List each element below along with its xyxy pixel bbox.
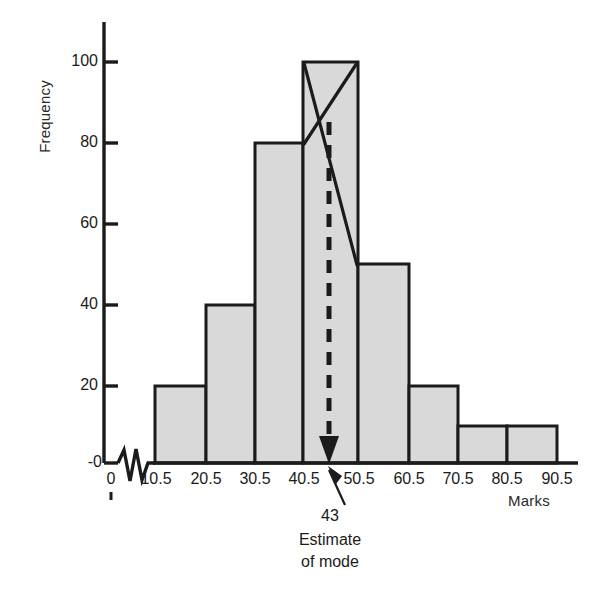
- bar-80.5-90.5: [507, 426, 557, 463]
- y-axis-title: Frequency: [36, 57, 53, 177]
- bar-50.5-60.5: [358, 264, 409, 463]
- x-tick-label-60.5: 60.5: [381, 470, 437, 488]
- x-tick-label-0: 0: [93, 470, 129, 488]
- x-tick-label-40.5: 40.5: [276, 470, 332, 488]
- x-tick-label-50.5: 50.5: [331, 470, 387, 488]
- x-axis-title: Marks: [508, 492, 550, 509]
- y-tick-label-20: 20: [44, 376, 98, 394]
- bar-20.5-30.5: [206, 305, 255, 463]
- bar-70.5-80.5: [458, 426, 507, 463]
- mode-estimate-caption-line-1: Estimate: [268, 531, 392, 549]
- x-tick-label-70.5: 70.5: [430, 470, 486, 488]
- x-tick-label-90.5: 90.5: [529, 470, 585, 488]
- x-tick-label-30.5: 30.5: [227, 470, 283, 488]
- x-tick-label-20.5: 20.5: [178, 470, 234, 488]
- y-axis: [104, 22, 118, 463]
- histogram-figure: 100 80 60 40 20 -0 0 10.5 20.5 30.5 40.5…: [0, 0, 612, 600]
- bar-10.5-20.5: [155, 386, 206, 463]
- bar-30.5-40.5: [255, 143, 303, 463]
- mode-estimate-caption-line-2: of mode: [268, 553, 392, 571]
- y-tick-label-40: 40: [44, 295, 98, 313]
- x-tick-label-80.5: 80.5: [479, 470, 535, 488]
- bar-60.5-70.5: [409, 386, 458, 463]
- x-tick-label-10.5: 10.5: [128, 470, 184, 488]
- mode-estimate-value: 43: [288, 507, 372, 525]
- y-tick-label-0: -0: [44, 453, 102, 471]
- y-tick-label-60: 60: [44, 214, 98, 232]
